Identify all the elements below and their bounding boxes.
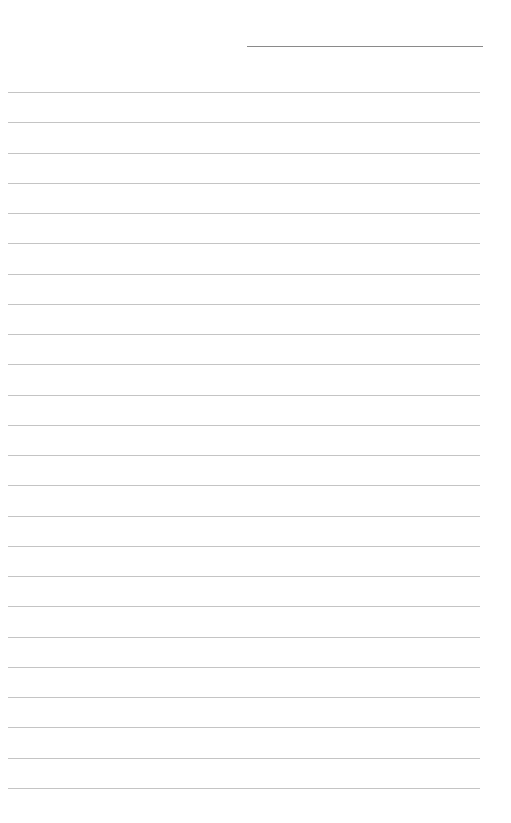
ruled-line (8, 697, 480, 698)
ruled-line (8, 334, 480, 335)
ruled-line (8, 758, 480, 759)
ruled-line (8, 153, 480, 154)
ruled-line (8, 606, 480, 607)
ruled-line (8, 122, 480, 123)
ruled-line (8, 546, 480, 547)
ruled-line (8, 183, 480, 184)
ruled-line (8, 213, 480, 214)
ruled-line (8, 364, 480, 365)
ruled-line (8, 274, 480, 275)
ruled-line (8, 425, 480, 426)
ruled-line (8, 576, 480, 577)
ruled-line (8, 395, 480, 396)
ruled-line (8, 304, 480, 305)
ruled-line (8, 455, 480, 456)
ruled-line (8, 637, 480, 638)
ruled-line (8, 727, 480, 728)
ruled-line (8, 485, 480, 486)
ruled-line (8, 516, 480, 517)
name-line (247, 46, 483, 47)
ruled-line (8, 667, 480, 668)
ruled-line (8, 243, 480, 244)
ruled-line (8, 788, 480, 789)
ruled-line (8, 92, 480, 93)
